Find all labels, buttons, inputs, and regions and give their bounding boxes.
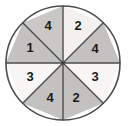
sector-label-2: 4 [91, 41, 99, 56]
spinner-wheel-graphic: 4 2 4 3 2 4 3 1 [0, 0, 128, 126]
sector-label-7: 1 [26, 40, 33, 55]
sector-label-3: 3 [91, 69, 98, 84]
spinner-figure: 4 2 4 3 2 4 3 1 [0, 0, 128, 126]
spinner-hub-dot [61, 61, 64, 64]
sector-label-1: 2 [74, 18, 81, 33]
sector-label-5: 4 [46, 90, 54, 105]
sector-label-0: 4 [44, 18, 52, 33]
sector-label-6: 3 [26, 69, 33, 84]
sector-label-4: 2 [72, 90, 79, 105]
